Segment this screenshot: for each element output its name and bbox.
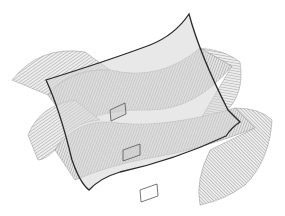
- parallelogram-lower: [140, 184, 158, 202]
- diagram-canvas: [0, 0, 285, 216]
- surface-diagram: [0, 0, 285, 216]
